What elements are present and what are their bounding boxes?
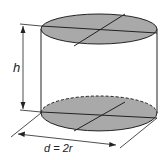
top-face xyxy=(41,14,157,46)
height-dimension xyxy=(20,24,41,112)
diameter-label: d = 2r xyxy=(44,142,74,154)
cylinder-diagram: h d = 2r xyxy=(0,0,166,160)
bottom-face xyxy=(41,96,157,131)
height-label: h xyxy=(13,60,20,75)
